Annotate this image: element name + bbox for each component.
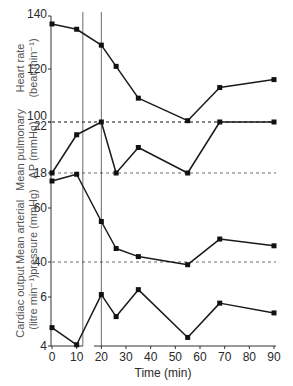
- y-axis-label-mean_arterial_pressure: Mean arterialpressure (mmHg): [14, 189, 39, 275]
- y-tick-label: 6: [40, 290, 47, 304]
- data-point-marker: [272, 120, 277, 125]
- y-axis-label-heart_rate: Heart rate(beat min⁻¹): [14, 38, 39, 97]
- x-tick-label: 20: [95, 350, 109, 364]
- data-point-marker: [217, 120, 222, 125]
- y-axis-label-line1: Cardiac output: [14, 266, 26, 338]
- data-point-marker: [185, 335, 190, 340]
- x-tick-label: 80: [243, 350, 257, 364]
- data-point-marker: [99, 219, 104, 224]
- data-point-marker: [217, 85, 222, 90]
- x-axis-label: Time (min): [135, 366, 192, 380]
- data-point-marker: [50, 179, 55, 184]
- multi-panel-line-chart: 1401201002218604064 Heart rate(beat min⁻…: [0, 0, 293, 386]
- data-point-marker: [136, 287, 141, 292]
- y-axis-label-line2: (litre min⁻¹): [27, 274, 39, 330]
- y-axis-label-cardiac_output: Cardiac output(litre min⁻¹): [14, 266, 39, 338]
- x-tick-labels: 0102030405060708090: [49, 350, 281, 364]
- x-tick-label: 40: [144, 350, 158, 364]
- x-tick-label: 90: [267, 350, 281, 364]
- x-tick-label: 0: [49, 350, 56, 364]
- y-axis-label-line1: Mean pulmonary: [14, 109, 26, 191]
- series-heart_rate: [50, 21, 277, 123]
- y-axis-labels: Heart rate(beat min⁻¹)Mean pulmonaryAP (…: [14, 38, 39, 337]
- x-tick-label: 70: [218, 350, 232, 364]
- data-point-marker: [185, 262, 190, 267]
- data-point-marker: [74, 27, 79, 32]
- data-point-marker: [50, 21, 55, 26]
- y-axis-label-line2: (beat min⁻¹): [27, 38, 39, 97]
- series-mean_arterial_pressure: [50, 172, 277, 267]
- vertical-event-lines: [83, 12, 102, 346]
- data-point-marker: [272, 77, 277, 82]
- data-point-marker: [217, 237, 222, 242]
- x-tick-label: 30: [119, 350, 133, 364]
- data-point-marker: [114, 246, 119, 251]
- axes: [48, 16, 276, 349]
- y-tick-label: 4: [40, 339, 47, 353]
- data-point-marker: [50, 171, 55, 176]
- data-point-marker: [114, 171, 119, 176]
- series-mean_pulmonary_ap: [50, 120, 277, 176]
- y-axis-label-line2: pressure (mmHg): [27, 189, 39, 275]
- data-point-marker: [136, 145, 141, 150]
- data-point-marker: [99, 43, 104, 48]
- y-axis-label-line1: Heart rate: [14, 44, 26, 93]
- data-point-marker: [185, 118, 190, 123]
- series-line: [52, 24, 274, 121]
- data-point-marker: [74, 132, 79, 137]
- data-point-marker: [50, 325, 55, 330]
- data-point-marker: [74, 172, 79, 177]
- data-point-marker: [272, 310, 277, 315]
- data-point-marker: [136, 254, 141, 259]
- y-axis-label-line2: AP (mmHg): [27, 121, 39, 178]
- data-point-marker: [99, 292, 104, 297]
- x-tick-label: 10: [70, 350, 84, 364]
- series-cardiac_output: [50, 287, 277, 347]
- data-point-marker: [272, 243, 277, 248]
- x-tick-label: 50: [169, 350, 183, 364]
- data-series: [50, 21, 277, 347]
- data-point-marker: [136, 96, 141, 101]
- y-tick-label: 140: [27, 7, 47, 21]
- data-point-marker: [99, 120, 104, 125]
- data-point-marker: [217, 301, 222, 306]
- data-point-marker: [114, 64, 119, 69]
- series-line: [52, 174, 274, 264]
- series-line: [52, 290, 274, 345]
- data-point-marker: [185, 171, 190, 176]
- data-point-marker: [114, 314, 119, 319]
- y-axis-label-line1: Mean arterial: [14, 200, 26, 264]
- data-point-marker: [74, 342, 79, 347]
- series-line: [52, 122, 274, 173]
- x-tick-label: 60: [193, 350, 207, 364]
